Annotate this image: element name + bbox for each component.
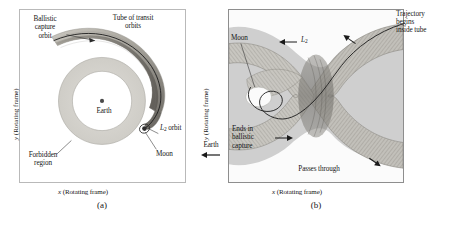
panel-a-caption: (a) — [72, 200, 132, 210]
panel-a-y-axis-label: y (Rotating frame) — [12, 88, 20, 140]
label-l2-orbit: L2 orbit — [160, 124, 194, 133]
panel-b: Moon L2 Ends in ballistic capture Passes… — [228, 9, 404, 183]
passes-through-line1: Passes through — [269, 165, 369, 174]
l2-orbit-text: orbit — [167, 124, 182, 132]
label-moon-b: Moon — [231, 34, 261, 42]
label-trajectory-begins-inside-tube: Trajectory begins inside tube — [396, 10, 450, 35]
figure-root: Ballistic capture orbit Tube of transit … — [0, 0, 450, 225]
l2-orbit-leader — [148, 129, 158, 134]
label-earth: Earth — [84, 107, 124, 115]
label-tube-of-transit-orbits: Tube of transit orbits — [98, 14, 168, 31]
panel-b-x-axis-label: x (Rotating frame) — [272, 188, 322, 196]
l2-pointer-arrow-icon — [277, 38, 299, 47]
earth-marker — [100, 99, 104, 103]
label-ends-in-ballistic-capture: Ends in ballistic capture — [232, 125, 272, 150]
label-forbidden-region: Forbidden region — [21, 151, 65, 168]
moon-marker — [142, 126, 147, 131]
label-passes-through-l2: Passes through L2 equilibrium region — [269, 156, 369, 183]
l2-subscript-b: 2 — [305, 38, 308, 44]
capture-pointer-arrow-icon — [273, 134, 295, 143]
panel-b-caption: (b) — [286, 200, 346, 210]
label-l2-b: L2 — [301, 36, 321, 45]
label-ballistic-capture-orbit: Ballistic capture orbit — [22, 15, 68, 40]
panel-a: Ballistic capture orbit Tube of transit … — [19, 9, 186, 183]
panel-a-x-axis-label: x (Rotating frame) — [58, 188, 108, 196]
moon-leader — [145, 133, 156, 150]
label-moon: Moon — [156, 150, 188, 158]
label-earth-direction: Earth — [196, 141, 226, 149]
earth-direction-arrow-icon — [198, 150, 224, 162]
panel-b-y-axis-label: y (Rotating frame) — [202, 88, 210, 140]
